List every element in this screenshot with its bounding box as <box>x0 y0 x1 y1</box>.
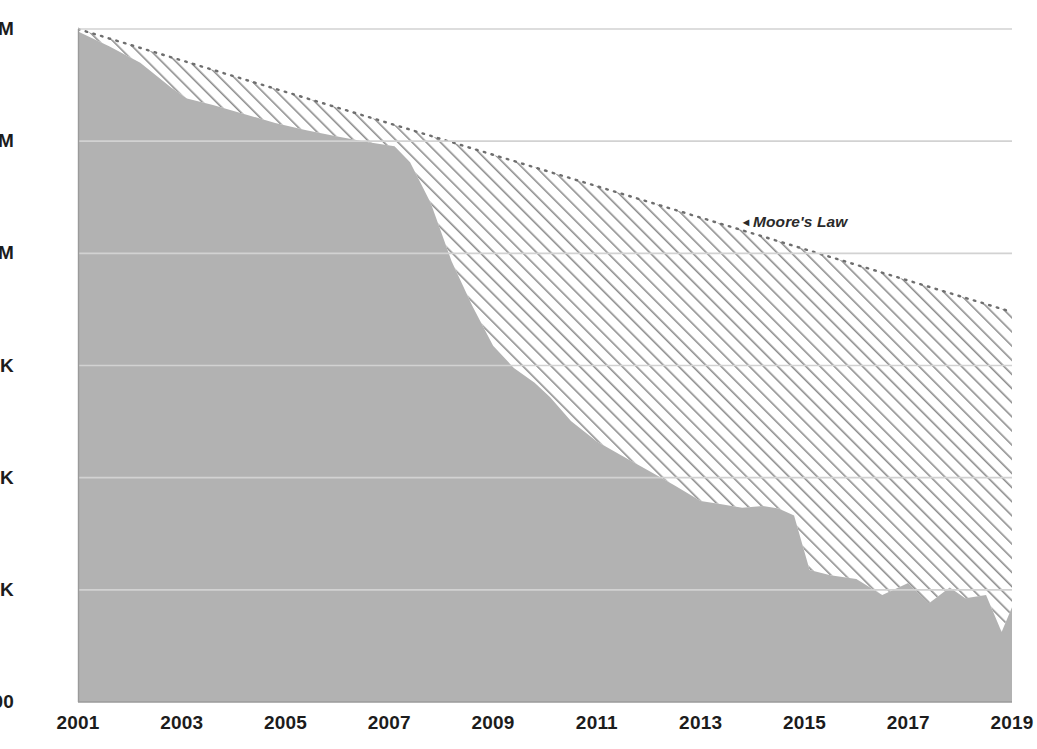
moores-law-annotation: ◂Moore's Law <box>743 213 847 231</box>
y-axis-tick-label: $100 <box>0 691 14 713</box>
x-axis-tick-label: 2003 <box>160 712 203 734</box>
y-axis-tick-label: $1K <box>0 579 14 601</box>
x-axis-tick-label: 2019 <box>990 712 1033 734</box>
y-axis-tick-label: $10K <box>0 467 14 489</box>
x-axis-tick-label: 2007 <box>368 712 411 734</box>
x-axis-tick-label: 2009 <box>472 712 515 734</box>
y-axis-tick-label: $100K <box>0 355 14 377</box>
x-axis-tick-label: 2015 <box>783 712 826 734</box>
x-axis-tick-label: 2011 <box>576 712 618 734</box>
x-axis-tick-label: 2017 <box>887 712 930 734</box>
cost-per-genome-chart: $100M$10M$1M$100K$10K$1K$100 20012003200… <box>0 0 1037 749</box>
y-axis-tick-label: $1M <box>0 242 14 264</box>
left-arrow-icon: ◂ <box>743 215 749 229</box>
x-axis-tick-label: 2013 <box>679 712 722 734</box>
annotation-label: Moore's Law <box>753 213 847 230</box>
x-axis-tick-label: 2005 <box>264 712 307 734</box>
x-axis-tick-label: 2001 <box>56 712 99 734</box>
chart-plot-area <box>0 0 1037 749</box>
y-axis-tick-label: $100M <box>0 18 14 40</box>
y-axis-tick-label: $10M <box>0 130 14 152</box>
